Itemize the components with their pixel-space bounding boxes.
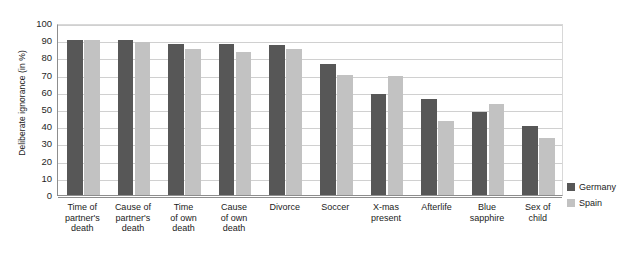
bar-germany-4 [269,45,285,195]
bar-germany-5 [320,64,336,195]
y-tick-label-80: 80 [23,53,52,63]
y-tick-label-20: 20 [23,157,52,167]
x-tick-label-1: Cause of partner's death [105,202,162,234]
y-tick-label-50: 50 [23,105,52,115]
bar-spain-8 [489,104,505,195]
bar-germany-8 [472,112,488,195]
y-tick-label-70: 70 [23,71,52,81]
bar-spain-6 [388,76,404,195]
gridline-100 [58,25,562,26]
bar-germany-0 [67,40,83,195]
legend-label-germany: Germany [579,182,616,192]
bar-spain-0 [84,40,100,195]
legend-swatch-icon-germany [567,183,575,191]
bar-germany-3 [219,44,235,195]
gridline-70 [58,77,562,78]
bar-spain-7 [438,121,454,195]
legend-item-spain[interactable]: Spain [567,196,635,209]
bar-chart: Deliberate ignorance (in %) 100908070605… [0,0,637,263]
y-tick-label-0: 0 [23,191,52,201]
y-tick-label-60: 60 [23,88,52,98]
x-tick-label-5: Soccer [307,202,364,213]
x-tick-label-3: Cause of own death [206,202,263,234]
bar-germany-7 [421,99,437,195]
bar-spain-4 [286,49,302,195]
x-tick-label-2: Time of own death [155,202,212,234]
chart-legend: GermanySpain [567,180,635,212]
y-tick-label-30: 30 [23,139,52,149]
legend-swatch-icon-spain [567,199,575,207]
gridline-60 [58,94,562,95]
bar-spain-9 [539,138,555,195]
x-tick-label-9: Sex of child [509,202,566,223]
bar-germany-9 [522,126,538,195]
gridline-90 [58,42,562,43]
y-tick-label-10: 10 [23,174,52,184]
y-tick-label-90: 90 [23,36,52,46]
bar-germany-2 [168,44,184,195]
bar-germany-6 [371,94,387,195]
gridline-0 [58,197,562,198]
y-tick-label-40: 40 [23,122,52,132]
bar-germany-1 [118,40,134,195]
x-tick-label-6: X-mas present [358,202,415,223]
plot-area [57,24,563,196]
x-tick-label-7: Afterlife [408,202,465,213]
bar-spain-3 [236,52,252,195]
x-tick-label-0: Time of partner's death [54,202,111,234]
bar-spain-5 [337,75,353,195]
legend-item-germany[interactable]: Germany [567,180,635,193]
y-tick-label-100: 100 [23,19,52,29]
x-tick-label-4: Divorce [256,202,313,213]
x-tick-label-8: Blue sapphire [459,202,516,223]
bar-spain-2 [185,49,201,195]
bar-spain-1 [135,42,151,195]
gridline-80 [58,59,562,60]
legend-label-spain: Spain [579,198,602,208]
